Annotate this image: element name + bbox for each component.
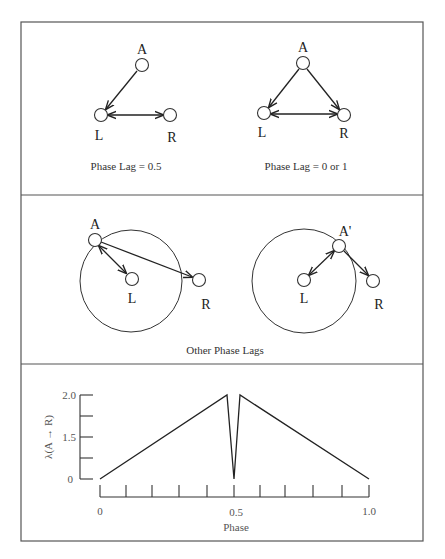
edge-a-to-l [106,71,137,109]
node-l-label: L [258,125,267,140]
node-l-label: L [95,128,104,143]
y-tick-label-0: 0 [68,473,74,485]
x-tick-label-0-5: 0.5 [229,506,243,518]
y-tick-label-2: 2.0 [62,389,76,401]
node-r-label: R [339,126,349,141]
edge-a-to-l [269,69,299,107]
node-a-prime-label: A' [339,224,352,239]
chart-lambda-vs-phase: 2.0 1.5 0 λ(A → R) 0 0.5 1.0 Phase [42,389,376,533]
diagram-other-lag-right: A' L R [252,224,384,333]
node-l-label: L [128,291,137,306]
node-r [338,109,351,122]
y-tick-label-1-5: 1.5 [62,431,76,443]
edge-a-l [309,251,334,275]
node-l [258,107,271,120]
edge-a-to-r [101,242,192,277]
node-l [95,109,108,122]
node-r [367,275,380,288]
x-tick-label-0: 0 [97,505,103,517]
node-a-label: A [90,217,101,232]
figure-frame [21,22,423,541]
node-r [193,274,206,287]
node-a [89,234,102,247]
lambda-curve [100,395,369,479]
node-l [126,273,139,286]
node-r [164,109,177,122]
node-r-label: R [374,297,384,312]
node-r-label: R [201,297,211,312]
caption-other-phase-lags: Other Phase Lags [186,344,264,356]
diagram-phase-lag-zero: A L R Phase Lag = 0 or 1 [258,40,351,172]
node-l-label: L [300,291,309,306]
edge-a-to-r [344,251,368,275]
x-tick-label-1: 1.0 [362,505,376,517]
figure: A L R Phase Lag = 0.5 A L R Phase Lag = … [0,0,445,559]
diagram-phase-lag-half: A L R Phase Lag = 0.5 [91,42,178,172]
node-a-prime [333,240,346,253]
x-ticks [100,485,369,497]
node-r-label: R [167,130,177,145]
node-a-label: A [137,42,148,57]
caption-phase-lag-half: Phase Lag = 0.5 [91,160,162,172]
node-a [297,57,310,70]
y-axis-label: λ(A → R) [42,415,55,459]
diagram-other-lag-left: A L R [80,217,211,332]
caption-phase-lag-zero: Phase Lag = 0 or 1 [265,160,348,172]
edge-a-to-r [307,69,339,109]
node-l [298,274,311,287]
x-axis-label: Phase [223,521,249,533]
node-a [136,59,149,72]
node-a-label: A [298,40,309,55]
